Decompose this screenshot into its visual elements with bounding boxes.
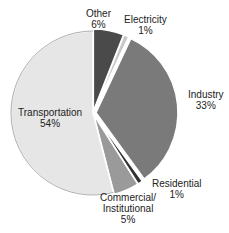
label-commercial: Commercial/Institutional5% [100,192,156,225]
label-industry: Industry33% [188,89,224,111]
label-electricity: Electricity1% [124,14,167,36]
label-other: Other6% [86,8,111,30]
label-transportation: Transportation54% [18,107,82,129]
label-residential: Residential1% [152,178,201,200]
